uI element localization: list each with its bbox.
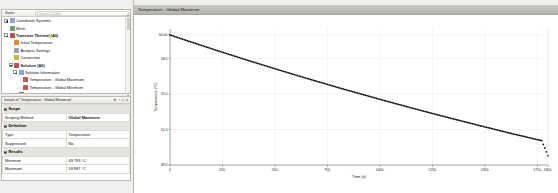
tree-item[interactable]: Mesh — [2, 24, 130, 31]
maximize-icon[interactable]: □ — [122, 98, 124, 102]
details-row-value[interactable]: Global Maximum — [66, 113, 130, 122]
data-point-marker — [445, 116, 447, 118]
tree-item-label: Temperature - Global Minimum — [30, 85, 83, 90]
data-point-marker — [283, 71, 285, 73]
details-row-value[interactable]: 59.997 °C — [66, 165, 130, 174]
tree-expander-minus-icon[interactable] — [13, 70, 17, 74]
tree-item[interactable]: Solution Information — [2, 69, 130, 76]
data-point-marker — [308, 78, 310, 80]
details-section-label: Definition — [3, 122, 130, 131]
details-section-header[interactable]: Definition — [3, 122, 130, 131]
tree-item[interactable]: Analysis Settings — [2, 47, 130, 54]
data-point-marker — [297, 75, 299, 77]
data-point-marker — [240, 57, 242, 59]
scrollbar-thumb[interactable] — [127, 18, 130, 30]
tree-item[interactable]: Convection — [2, 54, 130, 61]
tree-expander-minus-icon[interactable] — [9, 63, 13, 67]
data-point-marker — [360, 93, 362, 95]
tree-expander-spacer — [9, 48, 13, 52]
data-point-marker — [331, 85, 333, 87]
data-point-marker — [407, 106, 409, 108]
data-point-marker — [354, 91, 356, 93]
tree-expander-minus-icon[interactable] — [4, 33, 8, 37]
data-point-marker — [368, 95, 370, 97]
pin-icon[interactable]: ⊞ — [113, 98, 116, 102]
data-point-marker — [410, 107, 412, 109]
data-point-marker — [522, 135, 524, 137]
data-point-marker — [207, 47, 209, 49]
data-point-marker — [464, 121, 466, 123]
data-point-marker — [278, 69, 280, 71]
minimize-icon[interactable]: ─ — [118, 98, 121, 102]
data-point-marker — [379, 98, 381, 100]
details-row-value[interactable]: No — [66, 139, 130, 148]
tree-item-label: Solution (A6) — [21, 63, 45, 68]
data-point-marker — [394, 103, 396, 105]
data-point-marker — [412, 107, 414, 109]
data-point-marker — [481, 125, 483, 127]
solution-icon — [14, 63, 19, 68]
details-section-header[interactable]: Results — [3, 147, 130, 156]
plot-area[interactable]: 49.052.055.058.060.000250.500.750.1000.1… — [134, 15, 558, 193]
tree-filter-input[interactable]: Search Outline — [37, 11, 129, 16]
data-point-marker — [253, 61, 255, 63]
data-point-marker — [461, 120, 463, 122]
tree-expander-plus-icon[interactable] — [4, 19, 8, 23]
details-row-key: Minimum — [3, 156, 67, 165]
tree-item[interactable]: Initial Temperature — [2, 39, 130, 46]
plot-svg: 49.052.055.058.060.000250.500.750.1000.1… — [134, 15, 558, 193]
data-point-marker — [267, 66, 269, 68]
data-point-marker — [473, 123, 475, 125]
data-point-marker — [440, 115, 442, 117]
tree-item[interactable]: Coordinate Systems — [2, 17, 130, 24]
details-row[interactable]: SuppressedNo — [3, 139, 130, 148]
data-point-marker — [365, 94, 367, 96]
data-point-marker — [467, 122, 469, 124]
data-point-marker — [511, 133, 513, 135]
data-point-marker — [505, 131, 507, 133]
data-point-marker — [369, 96, 371, 98]
data-point-marker — [391, 102, 393, 104]
data-point-marker — [459, 120, 461, 122]
data-point-marker — [176, 36, 178, 38]
outline-tree-body: Coordinate SystemsMeshTransient Thermal … — [2, 17, 130, 93]
tree-header-divider — [35, 11, 36, 16]
result-probe-icon — [23, 77, 28, 82]
details-section-header[interactable]: Scope — [3, 105, 130, 114]
details-panel-buttons: ⊞ ─ □ ✕ — [113, 98, 128, 102]
data-point-marker — [418, 109, 420, 111]
data-point-marker — [218, 50, 220, 52]
close-icon[interactable]: ✕ — [125, 98, 128, 102]
data-point-marker — [242, 58, 244, 60]
details-row[interactable]: Scoping MethodGlobal Maximum — [3, 113, 130, 122]
data-point-marker — [291, 73, 293, 75]
details-row-value[interactable]: Temperature — [66, 130, 130, 139]
tree-item[interactable]: Transient Thermal (A5) — [2, 32, 130, 39]
data-point-marker — [300, 76, 302, 78]
data-point-marker — [239, 57, 241, 59]
data-point-marker — [287, 72, 289, 74]
scroll-up-icon[interactable] — [127, 14, 129, 16]
x-tick-label: 1750. — [533, 168, 542, 172]
data-point-marker — [514, 134, 516, 136]
details-row-value[interactable]: 49.793 °C — [66, 156, 130, 165]
details-row[interactable]: Minimum49.793 °C — [3, 156, 130, 165]
data-point-marker — [530, 137, 532, 139]
tree-item[interactable]: Temperature - Global Minimum — [2, 84, 130, 91]
tree-item[interactable]: Temperature - Global Maximum — [2, 76, 130, 83]
tree-vertical-scrollbar[interactable] — [125, 17, 130, 93]
tree-item[interactable]: Solution (A6) — [2, 61, 130, 68]
data-point-marker — [265, 65, 267, 67]
data-point-marker — [401, 104, 403, 106]
data-point-marker — [224, 52, 226, 54]
tree-item[interactable]: Temperature — [2, 91, 130, 93]
data-point-marker — [480, 125, 482, 127]
details-row[interactable]: Maximum59.997 °C — [3, 165, 130, 174]
data-point-marker — [390, 101, 392, 103]
data-point-marker — [196, 43, 198, 45]
data-point-marker — [383, 100, 385, 102]
details-row[interactable]: TypeTemperature — [3, 130, 130, 139]
data-point-marker — [344, 89, 346, 91]
data-point-marker — [198, 44, 200, 46]
data-point-marker — [475, 124, 477, 126]
